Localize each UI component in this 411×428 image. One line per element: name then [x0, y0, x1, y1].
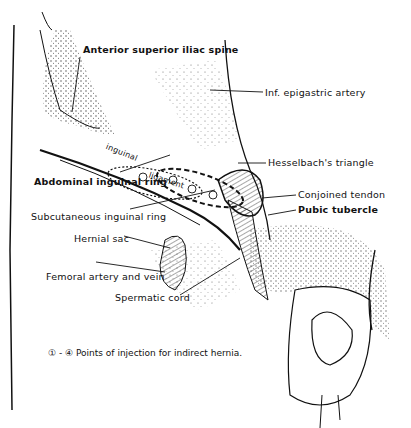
label-pubic-tubercle: Pubic tubercle [298, 204, 378, 215]
anatomical-illustration: Anterior superior iliac spine Inf. epiga… [0, 0, 411, 428]
label-spermatic-cord: Spermatic cord [115, 292, 190, 303]
label-anterior-superior-iliac-spine: Anterior superior iliac spine [83, 44, 239, 55]
label-subcutaneous-inguinal-ring: Subcutaneous inguinal ring [31, 211, 166, 222]
label-inf-epigastric-artery: Inf. epigastric artery [265, 87, 366, 98]
label-hesselbachs-triangle: Hesselbach's triangle [268, 157, 374, 168]
figure-caption: ① - ④ Points of injection for indirect h… [48, 348, 242, 358]
label-femoral-artery-and-vein: Femoral artery and vein [46, 271, 165, 282]
label-conjoined-tendon: Conjoined tendon [298, 189, 385, 200]
label-hernial-sac: Hernial sac [74, 233, 129, 244]
